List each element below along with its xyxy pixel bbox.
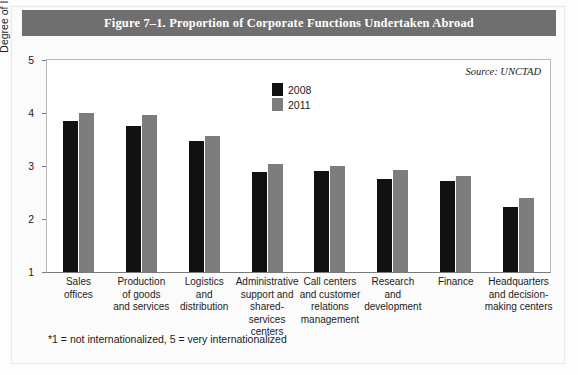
- bar-2011-1: [79, 113, 94, 272]
- bar-2011-3: [205, 136, 220, 272]
- bar-2008-7: [440, 181, 455, 272]
- bar-2008-2: [126, 126, 141, 272]
- figure-footnote: *1 = not internationalized, 5 = very int…: [48, 333, 287, 345]
- bar-2008-1: [63, 121, 78, 272]
- source-note: Source: UNCTAD: [465, 66, 541, 77]
- legend-label-2008: 2008: [288, 84, 311, 96]
- y-axis: Degree of Internationalization* 12345: [0, 0, 46, 375]
- bar-2011-6: [393, 170, 408, 272]
- bar-2008-6: [377, 179, 392, 272]
- y-tick-label: 4: [20, 107, 34, 119]
- legend-label-2011: 2011: [288, 99, 311, 111]
- figure-title-band: Figure 7–1. Proportion of Corporate Func…: [22, 10, 556, 36]
- chart-legend: 20082011: [272, 82, 342, 112]
- x-axis-label-7: Finance: [421, 276, 490, 289]
- legend-swatch-2011: [272, 98, 283, 111]
- bar-2011-5: [330, 166, 345, 272]
- x-axis-label-6: Researchanddevelopment: [358, 276, 427, 314]
- y-tick-label: 5: [20, 54, 34, 66]
- figure-page: Figure 7–1. Proportion of Corporate Func…: [0, 0, 578, 375]
- bar-2008-4: [252, 172, 267, 272]
- y-tick-label: 3: [20, 160, 34, 172]
- y-tick-label: 2: [20, 213, 34, 225]
- bar-2011-4: [268, 164, 283, 272]
- bar-2011-7: [456, 176, 471, 272]
- bar-group: [126, 60, 157, 272]
- legend-item-2008: 2008: [272, 82, 342, 97]
- x-axis-label-4: Administrativesupport andshared-services…: [233, 276, 302, 339]
- legend-swatch-2008: [272, 83, 283, 96]
- x-axis-label-5: Call centersand customerrelationsmanagem…: [296, 276, 365, 326]
- bar-group: [377, 60, 408, 272]
- bar-group: [63, 60, 94, 272]
- bar-group: [503, 60, 534, 272]
- y-axis-title: Degree of Internationalization*: [0, 0, 10, 92]
- y-tick-label: 1: [20, 266, 34, 278]
- x-axis-label-3: Logisticsanddistribution: [170, 276, 239, 314]
- bar-2011-8: [519, 198, 534, 272]
- x-axis-label-2: Productionof goodsand services: [107, 276, 176, 314]
- legend-item-2011: 2011: [272, 97, 342, 112]
- x-axis-labels: SalesofficesProductionof goodsand servic…: [47, 276, 550, 332]
- bar-group: [189, 60, 220, 272]
- x-axis-label-8: Headquartersand decision-making centers: [484, 276, 553, 314]
- x-axis-label-1: Salesoffices: [44, 276, 113, 301]
- bar-2008-5: [314, 171, 329, 272]
- bar-2011-2: [142, 115, 157, 272]
- bar-2008-8: [503, 207, 518, 272]
- bar-group: [440, 60, 471, 272]
- figure-title: Figure 7–1. Proportion of Corporate Func…: [104, 16, 474, 31]
- bar-2008-3: [189, 141, 204, 272]
